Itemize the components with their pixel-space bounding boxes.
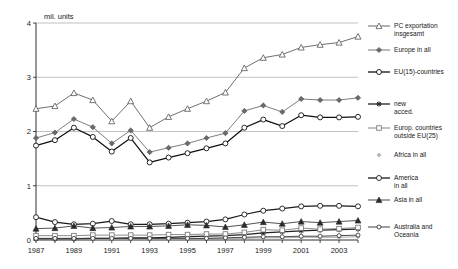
legend-item-asia-in-all[interactable]: Asia in all — [368, 196, 423, 203]
data-point-marker — [280, 124, 285, 129]
data-point-marker — [110, 236, 114, 240]
data-point-marker — [377, 153, 380, 156]
data-point-marker — [203, 98, 209, 104]
data-point-marker — [109, 219, 114, 224]
legend-item-new[interactable]: newacced. — [368, 100, 414, 115]
data-point-marker — [71, 90, 77, 96]
data-point-marker — [318, 115, 323, 120]
legend-label: America — [394, 174, 419, 181]
data-point-marker — [337, 226, 342, 231]
data-point-marker — [280, 235, 284, 239]
data-point-marker — [34, 143, 39, 148]
data-point-marker — [185, 151, 190, 156]
data-point-marker — [148, 236, 152, 240]
data-point-marker — [356, 114, 361, 119]
data-point-marker — [299, 96, 304, 101]
x-axis-tick-label: 2001 — [293, 246, 310, 255]
data-point-marker — [129, 236, 133, 240]
legend-label-line2: Oceania — [394, 231, 419, 238]
data-point-marker — [318, 227, 323, 232]
data-point-marker — [356, 233, 360, 237]
legend-label-line2: acced. — [394, 108, 414, 115]
data-point-marker — [185, 106, 191, 112]
legend-item-america[interactable]: Americain all — [368, 174, 419, 189]
legend-label: Africa in all — [394, 151, 427, 158]
data-point-marker — [377, 70, 382, 75]
data-point-marker — [280, 228, 285, 233]
data-point-marker — [90, 97, 96, 103]
data-point-marker — [34, 236, 38, 240]
legend-label: Europ. countries — [394, 124, 443, 132]
data-point-marker — [377, 126, 382, 131]
x-axis-tick-label: 1991 — [103, 246, 120, 255]
legend-item-africa-in-all[interactable]: Africa in all — [377, 151, 426, 158]
data-point-marker — [377, 225, 381, 229]
data-point-marker — [261, 208, 266, 213]
data-point-marker — [90, 134, 95, 139]
data-point-marker — [186, 236, 190, 240]
data-point-marker — [204, 232, 209, 237]
series-line — [36, 206, 358, 224]
legend-label: new — [394, 100, 406, 107]
data-point-marker — [34, 215, 39, 220]
data-point-marker — [147, 125, 153, 131]
series-america-in-all — [34, 203, 361, 226]
data-point-marker — [261, 227, 266, 232]
data-point-marker — [280, 206, 285, 211]
data-point-marker — [355, 34, 361, 40]
legend-item-eu-15-countries[interactable]: EU(15)-countries — [368, 68, 445, 76]
data-point-marker — [356, 225, 361, 230]
y-axis-tick-label: 1 — [27, 182, 31, 191]
legend-item-australia-and[interactable]: Australia andOceania — [368, 223, 433, 238]
legend: PC exportationinsgesamtEurope in allEU(1… — [368, 22, 445, 238]
legend-label-line2: outside EU(25) — [394, 132, 438, 140]
series-eu-15-countries — [34, 113, 361, 165]
data-point-marker — [52, 103, 58, 109]
data-point-marker — [204, 236, 208, 240]
data-point-marker — [33, 135, 38, 140]
data-point-marker — [299, 113, 304, 118]
data-point-marker — [242, 230, 247, 235]
data-point-marker — [261, 117, 266, 122]
legend-item-europ-countries[interactable]: Europ. countriesoutside EU(25) — [368, 124, 443, 140]
data-point-marker — [356, 204, 361, 209]
data-point-marker — [241, 65, 247, 71]
data-point-marker — [204, 135, 209, 140]
data-point-marker — [71, 125, 76, 130]
data-point-marker — [299, 204, 304, 209]
data-point-marker — [52, 220, 57, 225]
data-point-marker — [299, 234, 303, 238]
data-point-marker — [279, 51, 285, 57]
data-point-marker — [318, 234, 322, 238]
data-point-marker — [318, 203, 323, 208]
data-point-marker — [337, 234, 341, 238]
data-point-marker — [204, 146, 209, 151]
data-point-marker — [167, 236, 171, 240]
y-axis-tick-label: 4 — [27, 19, 31, 28]
data-point-marker — [166, 155, 171, 160]
data-point-marker — [166, 114, 172, 120]
series-line — [36, 228, 358, 236]
data-point-marker — [337, 203, 342, 208]
y-axis-tick-label: 2 — [27, 127, 31, 136]
data-point-marker — [261, 235, 265, 239]
x-axis-ticks: 198719891991199319951997199920012003 — [28, 240, 358, 255]
legend-label: PC exportation — [394, 22, 438, 30]
x-axis-tick-label: 1999 — [255, 246, 272, 255]
data-point-marker — [147, 160, 152, 165]
data-point-marker — [376, 101, 381, 106]
data-point-marker — [299, 226, 304, 231]
x-axis-tick-label: 1995 — [179, 246, 196, 255]
data-point-marker — [223, 141, 228, 146]
y-axis-tick-label: 0 — [27, 236, 31, 245]
legend-label: EU(15)-countries — [394, 68, 445, 76]
legend-item-pc-exportation[interactable]: PC exportationinsgesamt — [368, 22, 438, 38]
x-axis-tick-label: 1997 — [217, 246, 234, 255]
data-point-marker — [376, 47, 381, 52]
data-point-marker — [336, 40, 342, 46]
data-point-marker — [53, 236, 57, 240]
legend-label: Asia in all — [394, 196, 423, 203]
data-point-marker — [223, 236, 227, 240]
series-line — [36, 37, 358, 128]
legend-item-europe-in-all[interactable]: Europe in all — [368, 46, 431, 54]
